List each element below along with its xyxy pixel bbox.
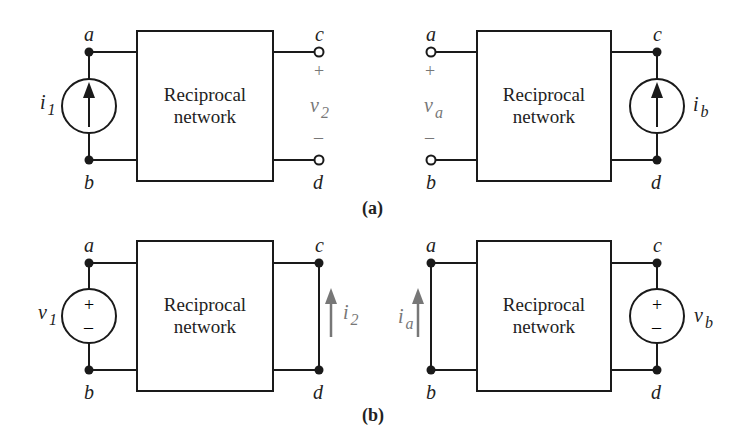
node-label-d: d	[313, 172, 323, 192]
plus-sign: +	[425, 62, 435, 80]
node-d	[315, 366, 324, 375]
source-label-vb: vb	[694, 305, 713, 325]
plus-sign: +	[314, 62, 324, 80]
arrow-up-icon	[412, 288, 424, 304]
caption-a: (a)	[362, 198, 383, 219]
node-c	[315, 259, 324, 268]
minus-sign: –	[84, 318, 93, 336]
node-a	[427, 259, 436, 268]
source-label-ib: ib	[693, 94, 709, 114]
node-label-a: a	[426, 24, 436, 44]
node-d	[653, 366, 662, 375]
network-label: Reciprocalnetwork	[137, 84, 273, 128]
caption-b: (b)	[362, 405, 384, 426]
node-label-d: d	[313, 382, 323, 402]
node-label-c: c	[315, 235, 324, 255]
plus-sign: +	[84, 296, 94, 314]
minus-sign: –	[425, 128, 434, 146]
node-b	[427, 366, 436, 375]
minus-sign: –	[652, 318, 661, 336]
source-label-v1: v1	[38, 302, 57, 322]
voltage-label-va: va	[424, 95, 443, 115]
arrow-up-icon	[83, 82, 95, 98]
node-b	[85, 366, 94, 375]
network-label: Reciprocalnetwork	[137, 294, 273, 338]
terminal-d	[315, 156, 324, 165]
current-label-ia: ia	[398, 306, 414, 326]
node-label-a: a	[84, 235, 94, 255]
node-a	[85, 259, 94, 268]
node-label-b: b	[426, 382, 436, 402]
network-label: Reciprocalnetwork	[477, 294, 611, 338]
node-label-c: c	[315, 24, 324, 44]
terminal-a	[427, 48, 436, 57]
node-c	[653, 48, 662, 57]
plus-sign: +	[652, 296, 662, 314]
terminal-b	[427, 156, 436, 165]
terminal-c	[315, 48, 324, 57]
arrow-up-icon	[325, 288, 337, 304]
node-d	[653, 156, 662, 165]
node-label-c: c	[653, 235, 662, 255]
node-label-b: b	[84, 382, 94, 402]
node-label-d: d	[651, 172, 661, 192]
node-label-d: d	[651, 382, 661, 402]
node-c	[653, 259, 662, 268]
node-a	[85, 48, 94, 57]
node-label-b: b	[84, 172, 94, 192]
node-label-a: a	[426, 235, 436, 255]
node-label-b: b	[426, 172, 436, 192]
circuit-diagram	[0, 0, 746, 448]
node-b	[85, 156, 94, 165]
node-label-a: a	[84, 24, 94, 44]
voltage-label-v2: v2	[310, 95, 329, 115]
source-label-i1: i1	[40, 92, 56, 112]
network-label: Reciprocalnetwork	[477, 84, 611, 128]
node-label-c: c	[653, 24, 662, 44]
current-label-i2: i2	[343, 302, 359, 322]
minus-sign: –	[314, 128, 323, 146]
arrow-up-icon	[651, 82, 663, 98]
